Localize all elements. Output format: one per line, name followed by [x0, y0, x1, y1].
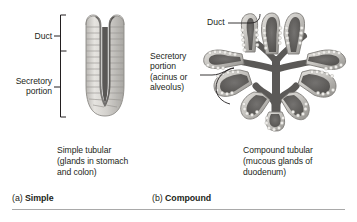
secretory-portion-leader-line-compound: [200, 62, 246, 108]
simple-tubular-gland-illustration: [74, 13, 136, 119]
duct-leader-line-compound: [228, 14, 274, 48]
panel-b-caption: Compound tubular (mucous glands of duode…: [243, 145, 347, 178]
duct-label-simple: Duct: [4, 31, 52, 41]
panel-b-tag: (b) Compound: [152, 193, 211, 203]
panel-b-tag-name: Compound: [165, 193, 211, 203]
secretory-portion-label-simple: Secretory portion: [0, 76, 52, 97]
panel-b-tag-letter: (b): [152, 193, 163, 203]
panel-a-tag: (a) Simple: [12, 193, 54, 203]
panel-a-caption: Simple tubular (glands in stomach and co…: [57, 145, 149, 178]
secretory-portion-label-compound: Secretory portion (acinus or alveolus): [150, 51, 204, 93]
panel-a-tag-letter: (a): [12, 193, 23, 203]
panel-a-bracket: [56, 14, 72, 118]
duct-label-compound: Duct: [207, 17, 224, 27]
gland-structure-figure: Duct Secretory portion: [0, 0, 357, 222]
panel-a-tag-name: Simple: [25, 193, 54, 203]
bottom-divider: [12, 209, 345, 210]
